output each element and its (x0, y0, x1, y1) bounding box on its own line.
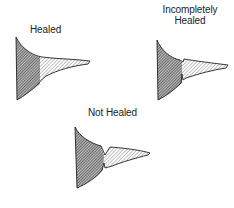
not-healed-tooth-shape (75, 127, 150, 188)
diagram-canvas (0, 0, 234, 208)
incompletely-healed-tooth-shape (157, 40, 228, 100)
healed-tooth-shape (16, 37, 90, 100)
